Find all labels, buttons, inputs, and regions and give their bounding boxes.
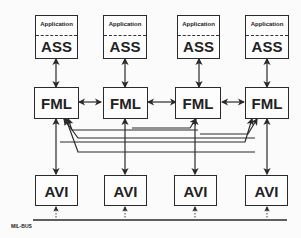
fml-node-1: FML bbox=[34, 87, 79, 119]
ass-label: ASS bbox=[246, 38, 288, 55]
avi-label: AVI bbox=[36, 182, 77, 199]
fml-node-4: FML bbox=[245, 87, 289, 119]
fml-label: FML bbox=[246, 95, 288, 112]
avi-node-2: AVI bbox=[104, 175, 147, 206]
application-label: Application bbox=[104, 21, 146, 27]
fml-label: FML bbox=[176, 95, 220, 112]
ass-label: ASS bbox=[36, 38, 77, 55]
cross-link-to-fml3 bbox=[132, 119, 196, 128]
cross-link-to-fml1-b bbox=[66, 119, 255, 152]
fml-node-3: FML bbox=[175, 87, 221, 119]
dashed-divider bbox=[104, 35, 146, 36]
avi-label: AVI bbox=[105, 182, 146, 199]
dashed-divider bbox=[36, 35, 77, 36]
avi-node-4: AVI bbox=[245, 175, 288, 206]
application-label: Application bbox=[36, 21, 77, 27]
avi-label: AVI bbox=[246, 182, 287, 199]
ass-node-4: Application ASS bbox=[245, 15, 289, 59]
fml-label: FML bbox=[104, 95, 147, 112]
dashed-divider bbox=[178, 35, 219, 36]
fml-node-2: FML bbox=[103, 87, 148, 119]
application-label: Application bbox=[178, 21, 219, 27]
ass-label: ASS bbox=[104, 38, 146, 55]
ass-node-1: Application ASS bbox=[35, 15, 78, 59]
avi-node-1: AVI bbox=[35, 175, 78, 206]
avi-node-3: AVI bbox=[174, 175, 217, 206]
ass-node-2: Application ASS bbox=[103, 15, 147, 59]
dashed-divider bbox=[246, 35, 288, 36]
mil-bus-label: MIL-BUS bbox=[11, 223, 32, 229]
avi-label: AVI bbox=[175, 182, 216, 199]
fml-label: FML bbox=[35, 95, 78, 112]
application-label: Application bbox=[246, 21, 288, 27]
ass-label: ASS bbox=[178, 38, 219, 55]
ass-node-3: Application ASS bbox=[177, 15, 220, 59]
